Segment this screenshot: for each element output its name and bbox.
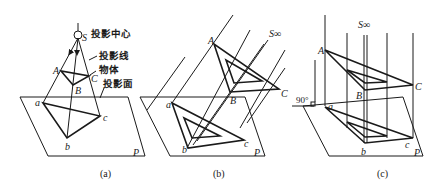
svg-text:c: c (244, 138, 249, 149)
projection-diagram: 投影中心 S 投影线 物体 投影面 A B C a b c P (a) A B … (0, 0, 438, 188)
svg-text:B: B (356, 90, 362, 101)
panel-c: A B C a b c P S∞ 90° (c) (292, 15, 423, 180)
svg-text:P: P (253, 147, 260, 158)
label-projection-plane: 投影面 (103, 78, 133, 89)
caption-a: (a) (100, 168, 111, 180)
svg-text:b: b (65, 141, 70, 152)
svg-text:C: C (415, 81, 422, 92)
angle-label: 90° (296, 95, 309, 105)
panel-b: A B C a b c P S∞ (b) (140, 15, 288, 180)
label-projection-ray: 投影线 (99, 50, 129, 61)
panel-a: 投影中心 S 投影线 物体 投影面 A B C a b c P (a) (20, 23, 145, 180)
direction-label-c: S∞ (358, 19, 370, 30)
svg-text:C: C (91, 73, 98, 84)
svg-text:c: c (405, 139, 410, 150)
direction-label-b: S∞ (269, 28, 281, 39)
svg-text:A: A (317, 45, 325, 56)
caption-b: (b) (213, 168, 225, 180)
svg-text:C: C (281, 88, 288, 99)
svg-text:c: c (103, 112, 108, 123)
label-projection-center: 投影中心 (91, 28, 131, 39)
projection-triangle-a (43, 103, 100, 138)
svg-text:a: a (166, 99, 171, 110)
svg-text:A: A (207, 35, 215, 46)
svg-text:a: a (35, 97, 40, 108)
svg-text:P: P (413, 147, 420, 158)
object-frame-c (325, 50, 413, 90)
svg-text:a: a (328, 101, 333, 112)
svg-text:S: S (82, 32, 87, 43)
svg-text:b: b (361, 146, 366, 157)
object-triangle (61, 71, 89, 85)
label-object: 物体 (99, 64, 119, 75)
caption-c: (c) (377, 168, 388, 180)
projection-center-eye-icon (74, 31, 82, 39)
svg-text:b: b (182, 144, 187, 155)
svg-text:A: A (52, 65, 60, 76)
object-frame (214, 44, 279, 92)
svg-text:B: B (230, 95, 236, 106)
svg-text:P: P (132, 147, 139, 158)
svg-text:B: B (75, 85, 81, 96)
